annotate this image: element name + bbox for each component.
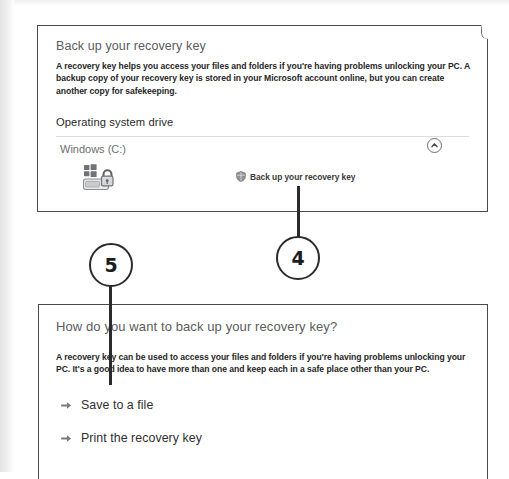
callout-4-leader-line [297,186,300,242]
panel-one-heading: Back up your recovery key [56,39,206,53]
back-up-your-recovery-key-link-label: Back up your recovery key [250,172,355,182]
bitlocker-drive-unlocked-icon [82,163,120,195]
paper-curl [481,25,490,40]
collapse-section-button[interactable] [427,138,442,153]
callout-5-leader-line [109,285,112,385]
arrow-right-icon [61,400,72,411]
section-divider [56,136,469,137]
callout-5: 5 [89,243,133,287]
callout-4: 4 [276,236,320,280]
callout-4-number: 4 [291,249,304,268]
shield-icon [236,171,246,182]
chevron-up-icon [428,139,441,152]
print-the-recovery-key-option[interactable]: Print the recovery key [61,431,202,445]
back-up-your-recovery-key-link[interactable]: Back up your recovery key [236,171,355,182]
save-to-a-file-label: Save to a file [81,398,153,412]
scan-edge-top [0,0,509,6]
scan-edge-left [0,0,14,472]
drive-label: Windows (C:) [60,143,126,155]
arrow-right-icon [61,433,72,444]
bitlocker-backup-panel: Back up your recovery key A recovery key… [37,25,488,212]
save-to-a-file-option[interactable]: Save to a file [61,398,153,412]
callout-5-number: 5 [104,256,117,275]
operating-system-drive-heading: Operating system drive [56,116,173,128]
print-the-recovery-key-label: Print the recovery key [81,431,202,445]
backup-method-panel: How do you want to back up your recovery… [38,304,488,479]
panel-two-description: A recovery key can be used to access you… [56,351,481,376]
panel-one-description: A recovery key helps you access your fil… [56,60,470,97]
panel-two-heading: How do you want to back up your recovery… [56,319,337,334]
